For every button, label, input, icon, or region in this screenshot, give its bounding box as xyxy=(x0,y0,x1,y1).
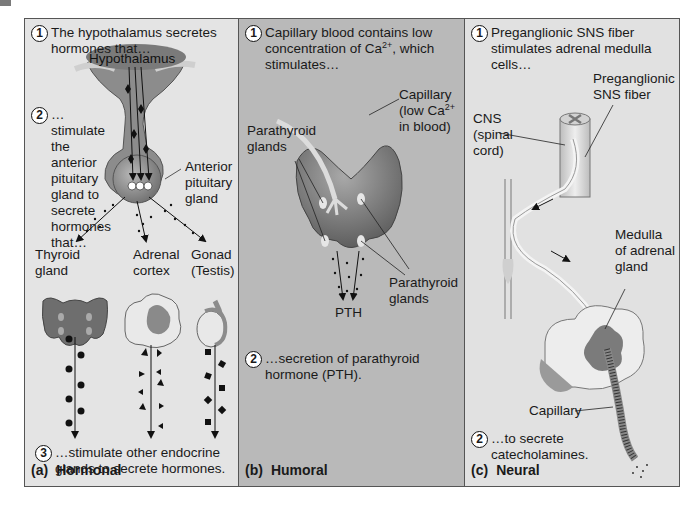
caption-letter: (a) xyxy=(31,462,48,478)
caption-neural: (c)Neural xyxy=(471,462,540,478)
figure-frame: 1 The hypothalamus secretes hormones tha… xyxy=(24,18,680,487)
label-parathyroid-left: Parathyroid glands xyxy=(247,123,317,155)
step-2-neural: 2 …to secrete catecholamines. xyxy=(471,431,631,463)
step-number: 1 xyxy=(471,25,488,42)
caption-letter: (b) xyxy=(245,462,263,478)
step-number: 1 xyxy=(31,25,48,42)
label-adrenal-cortex: Adrenal cortex xyxy=(133,247,183,279)
label-capillary: Capillary xyxy=(529,403,582,419)
label-capillary-low-ca: Capillary (low Ca2+ in blood) xyxy=(399,87,465,135)
step-text: …stimulate the anterior pituitary gland … xyxy=(51,107,113,251)
caption-hormonal: (a)Hormonal xyxy=(31,462,121,478)
caption-title: Humoral xyxy=(271,462,328,478)
label-gonad: Gonad (Testis) xyxy=(191,247,239,279)
step-1-humoral: 1 Capillary blood contains low concentra… xyxy=(245,25,461,73)
caption-letter: (c) xyxy=(471,462,488,478)
step-number: 1 xyxy=(245,25,262,42)
label-part: Capillary (low Ca xyxy=(399,87,452,118)
step-text: Preganglionic SNS fiber stimulates adren… xyxy=(491,25,676,73)
step-number: 2 xyxy=(31,107,48,124)
superscript: 2+ xyxy=(382,40,392,50)
step-number: 2 xyxy=(245,351,262,368)
step-text: …secretion of parathyroid hormone (PTH). xyxy=(265,351,459,383)
superscript: 2+ xyxy=(445,102,455,112)
step-number: 3 xyxy=(35,445,52,462)
panel-neural: 1 Preganglionic SNS fiber stimulates adr… xyxy=(465,19,679,486)
step-2-hormonal: 2 …stimulate the anterior pituitary glan… xyxy=(31,107,113,251)
step-2-humoral: 2 …secretion of parathyroid hormone (PTH… xyxy=(245,351,459,383)
label-medulla: Medulla of adrenal gland xyxy=(615,227,677,275)
panel-humoral: 1 Capillary blood contains low concentra… xyxy=(239,19,465,486)
label-anterior-pituitary: Anterior pituitary gland xyxy=(185,159,239,207)
corner-tab xyxy=(0,0,11,6)
panel-hormonal: 1 The hypothalamus secretes hormones tha… xyxy=(25,19,239,486)
label-pth: PTH xyxy=(335,305,362,321)
caption-title: Hormonal xyxy=(56,462,121,478)
step-1-neural: 1 Preganglionic SNS fiber stimulates adr… xyxy=(471,25,676,73)
label-parathyroid-right: Parathyroid glands xyxy=(389,275,459,307)
label-part: in blood) xyxy=(399,119,451,134)
step-number: 2 xyxy=(471,431,488,448)
label-cns: CNS (spinal cord) xyxy=(473,111,519,159)
caption-humoral: (b)Humoral xyxy=(245,462,328,478)
label-hypothalamus: Hypothalamus xyxy=(89,51,175,67)
step-text: Capillary blood contains low concentrati… xyxy=(265,25,461,73)
label-preganglionic: Preganglionic SNS fiber xyxy=(593,71,673,103)
step-text: …to secrete catecholamines. xyxy=(491,431,631,463)
label-thyroid: Thyroid gland xyxy=(35,247,85,279)
caption-title: Neural xyxy=(496,462,540,478)
